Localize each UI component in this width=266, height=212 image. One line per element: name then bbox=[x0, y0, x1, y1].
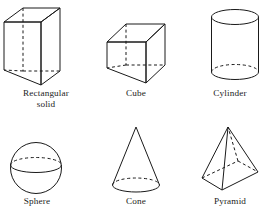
solids-figure: Rectangular solid Cube Cylinder Sphere C… bbox=[0, 0, 266, 212]
rect-solid-top-face bbox=[4, 8, 60, 22]
pyramid-drawing bbox=[202, 127, 258, 190]
sphere-outline bbox=[11, 143, 62, 194]
cube-top-face bbox=[107, 24, 165, 42]
cylinder-top-ellipse bbox=[212, 10, 259, 25]
cube-hidden-edges bbox=[107, 24, 165, 68]
cylinder-bottom-front-arc bbox=[212, 72, 259, 80]
label-pyramid: Pyramid bbox=[194, 196, 266, 207]
label-cylinder: Cylinder bbox=[194, 88, 266, 99]
pyramid-edge-apex-right bbox=[228, 127, 258, 172]
pyramid-base-front-edges bbox=[202, 172, 258, 190]
cone-base-front-arc bbox=[113, 185, 160, 192]
label-sphere: Sphere bbox=[0, 196, 74, 207]
cone-drawing bbox=[113, 127, 160, 192]
label-cube: Cube bbox=[100, 88, 172, 99]
cone-base-back-arc bbox=[113, 178, 160, 185]
cylinder-drawing bbox=[212, 10, 259, 80]
cylinder-bottom-back-arc bbox=[212, 65, 259, 73]
cube-drawing bbox=[107, 24, 165, 83]
cube-right-face bbox=[146, 24, 165, 83]
pyramid-hidden-edges bbox=[202, 127, 258, 178]
rect-solid-right-face bbox=[41, 8, 60, 85]
sphere-equator-back-arc bbox=[11, 158, 62, 165]
sphere-equator-front-arc bbox=[11, 165, 62, 173]
sphere-drawing bbox=[11, 143, 62, 194]
cone-right-slant bbox=[136, 127, 160, 185]
rect-solid-hidden-edges bbox=[4, 8, 60, 71]
label-cone: Cone bbox=[100, 196, 172, 207]
label-rectangular-solid: Rectangular solid bbox=[0, 88, 92, 110]
cone-left-slant bbox=[113, 127, 137, 185]
rectangular-solid-drawing bbox=[4, 8, 60, 85]
